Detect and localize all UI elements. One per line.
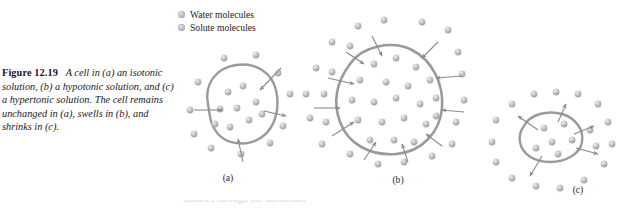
legend-label-solute: Solute molecules: [190, 22, 256, 33]
panel-isotonic: [186, 44, 302, 166]
figure-number: Figure 12.19: [2, 67, 58, 78]
panel-hypotonic: [296, 12, 468, 172]
solute-molecule-icon: [178, 24, 185, 31]
water-molecule-icon: [178, 11, 185, 18]
water-flow-arrows-c: [518, 104, 598, 176]
cell-membrane-a: [207, 65, 277, 144]
legend-label-water: Water molecules: [190, 9, 254, 20]
legend-item-solute: Solute molecules: [178, 21, 256, 33]
clipped-body-text: diffuses through the membrane: [183, 200, 443, 208]
panel-label-c: (c): [558, 184, 598, 195]
figure-caption: Figure 12.19 A cell in (a) an isotonic s…: [2, 66, 174, 134]
panel-label-a: (a): [208, 172, 248, 183]
panel-hypertonic: [486, 86, 626, 196]
molecules-inside-c: [533, 121, 576, 158]
molecules-inside-a: [212, 83, 266, 131]
legend: Water molecules Solute molecules: [178, 8, 256, 34]
figure-page: Figure 12.19 A cell in (a) an isotonic s…: [0, 0, 636, 210]
molecules-inside-b: [349, 55, 440, 146]
panel-label-b: (b): [378, 174, 418, 185]
legend-item-water: Water molecules: [178, 8, 256, 20]
clipped-body-text-line: diffuses through the membrane: [183, 200, 443, 205]
